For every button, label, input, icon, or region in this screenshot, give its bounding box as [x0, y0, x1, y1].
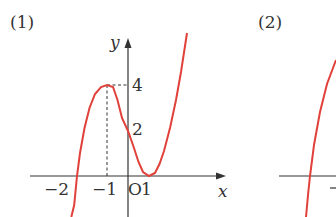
x-axis-label: x — [218, 181, 228, 201]
x-axis-arrow-icon — [216, 173, 226, 180]
panel-1-label: (1) — [10, 12, 34, 32]
panel-2-label: (2) — [258, 12, 282, 32]
diagram-canvas: (1) y x 4 2 −2 −1 O 1 (2) — [0, 0, 336, 217]
origin-label: O — [128, 179, 142, 199]
y-tick-4: 4 — [132, 75, 143, 95]
x-tick-minus-1: −1 — [92, 179, 117, 199]
panel-2-curve — [306, 60, 336, 217]
x-tick-minus-2: −2 — [44, 179, 69, 199]
x-tick-1: 1 — [141, 179, 152, 199]
y-tick-2: 2 — [132, 119, 143, 139]
y-axis-label: y — [109, 32, 120, 52]
y-axis-arrow-icon — [125, 38, 132, 48]
